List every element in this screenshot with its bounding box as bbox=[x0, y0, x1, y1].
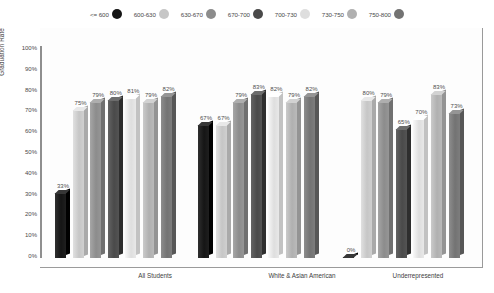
x-axis-label-underrepresented: Underrepresented bbox=[393, 272, 444, 279]
bar[interactable]: 83% bbox=[431, 94, 442, 258]
bar-slot: 67% bbox=[215, 46, 233, 258]
bar-slot: 80% bbox=[107, 46, 125, 258]
bar-slot: 73% bbox=[448, 46, 466, 258]
legend-item-label: 670-700 bbox=[228, 11, 250, 18]
legend-item-3[interactable]: 670-700 bbox=[228, 9, 263, 19]
bar-front-face bbox=[361, 100, 372, 258]
bar[interactable]: 80% bbox=[361, 100, 372, 258]
bar-front-face bbox=[413, 119, 424, 258]
bar-side-face bbox=[460, 109, 464, 255]
bar-slot: 79% bbox=[285, 46, 303, 258]
bar-side-face bbox=[244, 97, 248, 255]
legend-item-1[interactable]: 600-630 bbox=[134, 9, 169, 19]
legend-item-5[interactable]: 730-750 bbox=[322, 9, 357, 19]
y-axis-title: Graduation Rate bbox=[0, 0, 5, 112]
bar[interactable]: 67% bbox=[198, 125, 209, 258]
bar-slot: 82% bbox=[303, 46, 321, 258]
bar-side-face bbox=[407, 125, 411, 255]
legend-item-label: <= 600 bbox=[90, 11, 109, 18]
bar[interactable]: 70% bbox=[413, 119, 424, 258]
x-axis-category-labels: All Students White & Asian American Unde… bbox=[40, 272, 483, 286]
bar[interactable]: 65% bbox=[396, 129, 407, 258]
legend-item-0[interactable]: <= 600 bbox=[90, 9, 122, 19]
bar-front-face bbox=[108, 100, 119, 258]
bar-side-face bbox=[297, 97, 301, 255]
bar[interactable]: 79% bbox=[143, 102, 154, 258]
bar[interactable]: 79% bbox=[378, 102, 389, 258]
bar-value-label: 73% bbox=[446, 103, 468, 109]
bar-side-face bbox=[84, 105, 88, 255]
bar-front-face bbox=[233, 102, 244, 258]
bar[interactable]: 79% bbox=[286, 102, 297, 258]
bar-slot: 79% bbox=[377, 46, 395, 258]
chart-legend: <= 600600-630630-670670-700700-730730-75… bbox=[0, 6, 494, 22]
chart-plot-area: 33%75%79%80%81%79%82% 67%67%79%83%82%79%… bbox=[42, 46, 483, 258]
bar[interactable]: 73% bbox=[449, 113, 460, 258]
bar-front-face bbox=[431, 94, 442, 258]
bar[interactable]: 82% bbox=[161, 96, 172, 258]
y-tick-0-percent: 0% bbox=[28, 253, 37, 259]
x-axis-label-all-students: All Students bbox=[138, 272, 172, 279]
y-tick-70-percent: 70% bbox=[25, 107, 37, 113]
bar-group-all-students: 33%75%79%80%81%79%82% bbox=[54, 46, 178, 258]
bar-side-face bbox=[154, 97, 158, 255]
legend-swatch-2 bbox=[206, 9, 216, 19]
bar[interactable]: 83% bbox=[251, 94, 262, 258]
bar-side-face bbox=[424, 115, 428, 255]
bar-slot: 83% bbox=[430, 46, 448, 258]
bar-front-face bbox=[73, 110, 84, 259]
y-tick-100-percent: 100% bbox=[22, 45, 37, 51]
legend-item-label: 630-670 bbox=[181, 11, 203, 18]
bar-slot: 81% bbox=[124, 46, 142, 258]
bar[interactable]: 81% bbox=[125, 98, 136, 258]
y-tick-80-percent: 80% bbox=[25, 87, 37, 93]
bar-group-white-asian-american: 67%67%79%83%82%79%82% bbox=[197, 46, 321, 258]
bar[interactable]: 79% bbox=[233, 102, 244, 258]
y-tick-60-percent: 60% bbox=[25, 128, 37, 134]
legend-swatch-4 bbox=[300, 9, 310, 19]
bar[interactable]: 82% bbox=[304, 96, 315, 258]
bar-slot: 82% bbox=[160, 46, 178, 258]
bar-side-face bbox=[172, 91, 176, 255]
bar[interactable]: 0% bbox=[343, 257, 354, 259]
bar-side-face bbox=[442, 89, 446, 255]
y-tick-50-percent: 50% bbox=[25, 149, 37, 155]
y-tick-30-percent: 30% bbox=[25, 191, 37, 197]
bar-slot: 67% bbox=[197, 46, 215, 258]
bar-slot: 80% bbox=[360, 46, 378, 258]
bar-side-face bbox=[315, 91, 319, 255]
bar-top-face bbox=[343, 254, 358, 258]
bar[interactable]: 82% bbox=[268, 96, 279, 258]
y-tick-40-percent: 40% bbox=[25, 170, 37, 176]
y-tick-10-percent: 10% bbox=[25, 232, 37, 238]
bar-front-face bbox=[125, 98, 136, 258]
bar[interactable]: 80% bbox=[108, 100, 119, 258]
y-tick-90-percent: 90% bbox=[25, 66, 37, 72]
bar-slot: 0% bbox=[342, 46, 360, 258]
bar-slot: 83% bbox=[250, 46, 268, 258]
bar-slot: 75% bbox=[72, 46, 90, 258]
legend-swatch-6 bbox=[394, 9, 404, 19]
y-tick-20-percent: 20% bbox=[25, 211, 37, 217]
bar[interactable]: 67% bbox=[216, 125, 227, 258]
bar-top-face bbox=[73, 107, 88, 111]
bar-front-face bbox=[449, 113, 460, 258]
bar-side-face bbox=[101, 97, 105, 255]
bar-side-face bbox=[279, 91, 283, 255]
bar-slot: 70% bbox=[412, 46, 430, 258]
legend-item-6[interactable]: 750-800 bbox=[369, 9, 404, 19]
bar[interactable]: 75% bbox=[73, 110, 84, 259]
bar-side-face bbox=[119, 95, 123, 255]
bar-side-face bbox=[262, 89, 266, 255]
legend-item-label: 600-630 bbox=[134, 11, 156, 18]
bar-slot: 65% bbox=[395, 46, 413, 258]
bar-side-face bbox=[136, 93, 140, 255]
legend-item-2[interactable]: 630-670 bbox=[181, 9, 216, 19]
bar-front-face bbox=[286, 102, 297, 258]
bar-side-face bbox=[227, 121, 231, 255]
bar-value-label: 82% bbox=[301, 86, 323, 92]
bar[interactable]: 33% bbox=[55, 193, 66, 258]
legend-item-4[interactable]: 700-730 bbox=[275, 9, 310, 19]
bar[interactable]: 79% bbox=[90, 102, 101, 258]
x-axis-label-white-asian-american: White & Asian American bbox=[268, 272, 335, 279]
